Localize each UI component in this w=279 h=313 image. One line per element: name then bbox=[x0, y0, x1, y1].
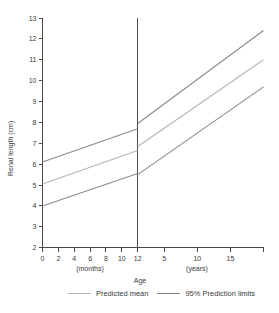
predicted-mean-legend-label: Predicted mean bbox=[96, 289, 149, 298]
series-line-95-prediction-limits-upper- bbox=[138, 31, 264, 124]
x-tick-label: 6 bbox=[88, 255, 92, 262]
y-tick-label: 11 bbox=[29, 56, 36, 63]
x-tick-label: 8 bbox=[104, 255, 108, 262]
x-tick-label: 10 bbox=[118, 255, 126, 262]
plot-area: 234567891011121302468101251015 bbox=[29, 15, 264, 262]
y-axis-label: Renal length (cm) bbox=[7, 121, 15, 176]
years-unit-label: (years) bbox=[186, 265, 208, 273]
renal-length-chart: Renal length (cm) 2345678910111213024681… bbox=[0, 0, 279, 313]
series-line-predicted-mean bbox=[138, 60, 264, 147]
series-line-95-prediction-limits-upper- bbox=[43, 129, 138, 162]
x-tick-label: 10 bbox=[193, 255, 201, 262]
x-tick-label: 0 bbox=[41, 255, 45, 262]
y-tick-label: 9 bbox=[33, 98, 37, 105]
y-tick-label: 10 bbox=[29, 77, 37, 84]
months-unit-label: (months) bbox=[76, 265, 104, 273]
y-tick-label: 4 bbox=[33, 202, 37, 209]
predicted-mean-line-swatch bbox=[68, 293, 91, 294]
y-tick-label: 8 bbox=[33, 119, 37, 126]
y-tick-label: 12 bbox=[29, 35, 37, 42]
x-tick-label: 12 bbox=[134, 255, 142, 262]
x-tick-label: 4 bbox=[72, 255, 76, 262]
chart-canvas: Renal length (cm) 2345678910111213024681… bbox=[0, 0, 279, 313]
y-tick-label: 6 bbox=[33, 161, 37, 168]
prediction-limits-legend-label: 95% Prediction limits bbox=[185, 289, 255, 298]
x-tick-label: 5 bbox=[162, 255, 166, 262]
y-tick-label: 5 bbox=[33, 182, 37, 189]
x-tick-label: 2 bbox=[56, 255, 60, 262]
prediction-limits-line-swatch bbox=[157, 293, 180, 294]
legend-item-prediction-limits: 95% Prediction limits bbox=[157, 289, 255, 298]
series-line-95-prediction-limits-lower- bbox=[138, 87, 264, 175]
x-tick-label: 15 bbox=[226, 255, 234, 262]
chart-legend: Predicted mean 95% Prediction limits bbox=[0, 289, 279, 298]
y-tick-label: 13 bbox=[29, 15, 37, 22]
y-tick-label: 3 bbox=[33, 223, 37, 230]
y-tick-label: 2 bbox=[33, 244, 37, 251]
x-axis-label: Age bbox=[134, 277, 147, 285]
legend-item-predicted-mean: Predicted mean bbox=[68, 289, 149, 298]
y-tick-label: 7 bbox=[33, 140, 37, 147]
